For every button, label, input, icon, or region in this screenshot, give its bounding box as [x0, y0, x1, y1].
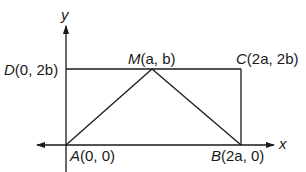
y-axis-label: y	[60, 6, 70, 23]
segment-am	[66, 69, 152, 145]
point-d-label: D(0, 2b)	[4, 61, 58, 78]
point-a-label: A(0, 0)	[69, 147, 115, 164]
point-m-label: M(a, b)	[128, 50, 176, 67]
point-c-label: C(2a, 2b)	[236, 50, 299, 67]
x-axis-label: x	[278, 135, 287, 152]
segment-mb	[152, 69, 241, 145]
point-b-label: B(2a, 0)	[211, 147, 264, 164]
coordinate-diagram: y x D(0, 2b) M(a, b) C(2a, 2b) A(0, 0) B…	[0, 0, 306, 172]
